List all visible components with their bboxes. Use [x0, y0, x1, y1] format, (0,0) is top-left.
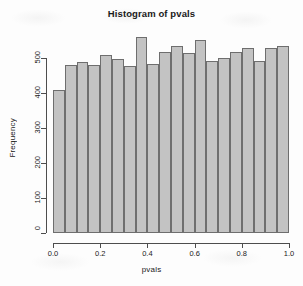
histogram-bar — [112, 59, 124, 233]
y-axis-tick — [41, 128, 46, 129]
histogram-bar — [230, 52, 242, 233]
y-axis-title: Frequency — [8, 118, 17, 158]
x-axis-tick-label: 0.0 — [40, 250, 66, 258]
histogram-bar — [136, 37, 148, 233]
histogram-bars — [53, 37, 289, 233]
histogram-bar — [171, 46, 183, 233]
histogram-bar — [77, 62, 89, 233]
y-axis-tick-label-wrap: 500 — [27, 51, 41, 65]
x-axis-tick — [242, 243, 243, 248]
histogram-bar — [242, 48, 254, 233]
x-axis-line — [53, 243, 289, 244]
histogram-bar — [183, 53, 195, 233]
histogram-bar — [206, 61, 218, 233]
y-axis-tick-label-wrap: 300 — [27, 121, 41, 135]
y-axis-tick-label-wrap: 400 — [27, 86, 41, 100]
x-axis-tick-label: 0.6 — [182, 250, 208, 258]
y-axis-tick-label: 300 — [34, 121, 42, 134]
histogram-bar — [254, 61, 266, 233]
x-axis-tick-label: 0.4 — [134, 250, 160, 258]
y-axis-tick — [41, 163, 46, 164]
y-axis-tick — [41, 58, 46, 59]
histogram-bar — [88, 65, 100, 233]
x-axis-tick-label: 0.8 — [229, 250, 255, 258]
y-axis-tick — [41, 93, 46, 94]
histogram-bar — [277, 46, 289, 233]
histogram-bar — [100, 55, 112, 233]
x-axis-tick — [289, 243, 290, 248]
y-axis-tick-label: 400 — [34, 86, 42, 99]
histogram-plot: Histogram of pvals 0100200300400500 Freq… — [0, 0, 303, 286]
histogram-bar — [147, 64, 159, 233]
chart-title: Histogram of pvals — [0, 8, 303, 19]
histogram-bar — [159, 52, 171, 233]
y-axis-tick-label: 500 — [34, 51, 42, 64]
y-axis-tick-label-wrap: 0 — [27, 226, 41, 240]
y-axis-tick-label-wrap: 100 — [27, 191, 41, 205]
x-axis-title: pvals — [0, 265, 303, 274]
y-axis-tick — [41, 198, 46, 199]
x-axis-tick — [195, 243, 196, 248]
plot-area — [53, 37, 289, 233]
x-axis-tick — [147, 243, 148, 248]
y-axis-tick — [41, 233, 46, 234]
y-axis-line — [46, 58, 47, 233]
histogram-bar — [195, 40, 207, 233]
y-axis-tick-label: 100 — [34, 191, 42, 204]
y-axis-tick-label-wrap: 200 — [27, 156, 41, 170]
histogram-bar — [218, 58, 230, 233]
histogram-bar — [265, 48, 277, 233]
x-axis-tick — [100, 243, 101, 248]
x-axis-tick-label: 0.2 — [87, 250, 113, 258]
y-axis-tick-label: 0 — [34, 226, 42, 230]
histogram-bar — [53, 90, 65, 234]
histogram-bar — [124, 66, 136, 233]
x-axis-tick-label: 1.0 — [276, 250, 302, 258]
y-axis-tick-label: 200 — [34, 156, 42, 169]
histogram-bar — [65, 65, 77, 233]
x-axis-tick — [53, 243, 54, 248]
